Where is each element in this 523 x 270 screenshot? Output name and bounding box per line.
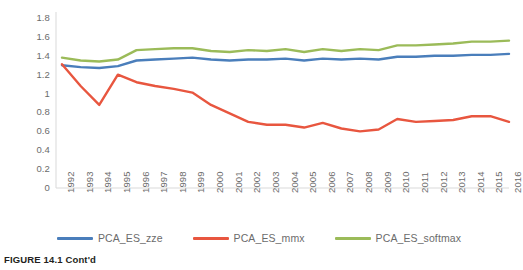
x-axis-tick-2001: 2001 xyxy=(234,171,244,193)
legend-swatch-icon xyxy=(57,237,93,240)
x-axis-tick-1993: 1993 xyxy=(85,171,95,193)
x-axis-tick-2007: 2007 xyxy=(345,171,355,193)
figure-caption: FIGURE 14.1 Cont'd xyxy=(4,254,96,265)
x-axis-tick-2010: 2010 xyxy=(401,171,411,193)
series-line-PCA_ES_zze xyxy=(62,54,509,68)
x-axis-tick-2013: 2013 xyxy=(457,171,467,193)
x-axis-tick-2004: 2004 xyxy=(290,171,300,193)
x-axis-tick-1994: 1994 xyxy=(103,171,113,193)
x-axis-tick-1992: 1992 xyxy=(66,171,76,193)
legend-label: PCA_ES_zze xyxy=(98,232,163,244)
x-axis-tick-2014: 2014 xyxy=(476,171,486,193)
x-axis-tick-2005: 2005 xyxy=(308,171,318,193)
x-axis-tick-2011: 2011 xyxy=(420,172,430,193)
x-axis-tick-2009: 2009 xyxy=(383,171,393,193)
x-axis-tick-2003: 2003 xyxy=(271,171,281,193)
x-axis-tick-2015: 2015 xyxy=(494,171,504,193)
chart-plot-area: 00.20.40.60.811.21.41.61.8 1992199319941… xyxy=(0,0,518,226)
x-axis-tick-2002: 2002 xyxy=(252,171,262,193)
x-axis-tick-2006: 2006 xyxy=(327,171,337,193)
legend-swatch-icon xyxy=(335,237,371,240)
x-axis-tick-2008: 2008 xyxy=(364,171,374,193)
legend-swatch-icon xyxy=(193,237,229,240)
x-axis-tick-1997: 1997 xyxy=(159,171,169,193)
chart-legend: PCA_ES_zzePCA_ES_mmxPCA_ES_softmax xyxy=(0,229,518,247)
legend-entry-PCA_ES_zze[interactable]: PCA_ES_zze xyxy=(57,232,163,244)
x-axis-tick-2012: 2012 xyxy=(439,171,449,193)
legend-label: PCA_ES_mmx xyxy=(234,232,305,244)
x-axis-tick-1999: 1999 xyxy=(196,171,206,193)
legend-entry-PCA_ES_mmx[interactable]: PCA_ES_mmx xyxy=(193,232,305,244)
legend-label: PCA_ES_softmax xyxy=(376,232,461,244)
x-axis-tick-2000: 2000 xyxy=(215,171,225,193)
x-axis-tick-1996: 1996 xyxy=(141,171,151,193)
legend-entry-PCA_ES_softmax[interactable]: PCA_ES_softmax xyxy=(335,232,461,244)
series-line-PCA_ES_mmx xyxy=(62,64,509,131)
x-axis-tick-2016: 2016 xyxy=(513,171,523,193)
x-axis-tick-1998: 1998 xyxy=(178,171,188,193)
x-axis-tick-1995: 1995 xyxy=(122,171,132,193)
